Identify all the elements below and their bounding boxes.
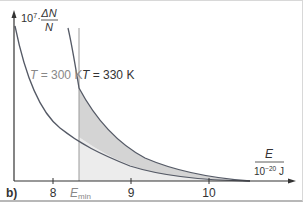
x-tick-label-10: 10 (202, 186, 216, 200)
y-axis-label-factor: 107· (21, 12, 41, 24)
x-axis-label-denominator: 10−20 J (254, 165, 284, 177)
x-axis-label-numerator: E (265, 147, 274, 161)
curve-label-t330: T = 330 K (82, 68, 134, 82)
emin-label: Emin (70, 186, 91, 201)
y-axis-arrow-icon (12, 10, 17, 18)
panel-label: b) (6, 186, 17, 200)
energy-distribution-chart: 8 9 10 Emin b) 107· ΔN N E 10−20 J T = 3… (0, 0, 304, 203)
x-tick-label-9: 9 (128, 186, 135, 200)
y-axis-label-numerator: ΔN (40, 7, 56, 19)
y-axis-label-denominator: N (45, 21, 53, 33)
x-tick-label-8: 8 (50, 186, 57, 200)
curve-label-t300: T = 300 K (30, 68, 82, 82)
x-axis-arrow-icon (288, 179, 296, 184)
